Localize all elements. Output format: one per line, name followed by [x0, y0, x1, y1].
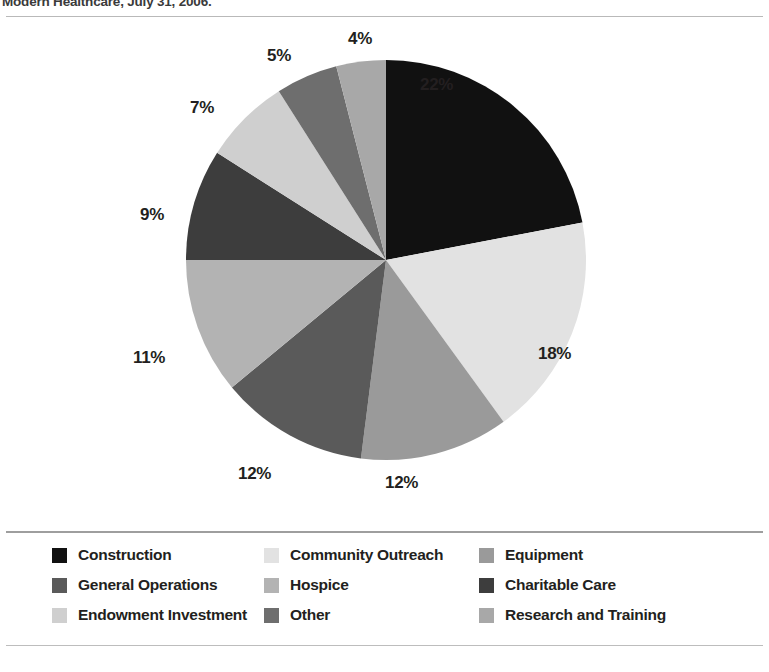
pie-label-other: 5% [267, 47, 291, 64]
pie-chart-svg [185, 59, 587, 461]
pie-slice-group [186, 60, 586, 460]
legend-swatch-icon [264, 548, 279, 563]
pie-chart [185, 59, 587, 461]
legend-item[interactable]: Equipment [479, 540, 742, 570]
legend-item[interactable]: Charitable Care [479, 570, 742, 600]
legend-item-label: Research and Training [505, 606, 666, 624]
legend-swatch-icon [52, 548, 67, 563]
legend-item[interactable]: Other [264, 600, 479, 630]
top-divider [6, 16, 763, 17]
legend-item-label: Equipment [505, 546, 583, 564]
legend-item-label: Construction [78, 546, 171, 564]
legend-swatch-icon [479, 548, 494, 563]
legend-swatch-icon [52, 608, 67, 623]
legend-swatch-icon [479, 608, 494, 623]
source-caption: Modern Healthcare, July 31, 2006. [0, 0, 769, 13]
legend-item[interactable]: General Operations [52, 570, 264, 600]
legend-top-divider [6, 531, 763, 533]
legend-item[interactable]: Research and Training [479, 600, 742, 630]
legend-swatch-icon [264, 608, 279, 623]
pie-label-hospice: 11% [133, 349, 165, 366]
legend-item-label: Hospice [290, 576, 349, 594]
legend-swatch-icon [264, 578, 279, 593]
legend-item[interactable]: Construction [52, 540, 264, 570]
legend-item-label: Endowment Investment [78, 606, 247, 624]
chart-legend: ConstructionCommunity OutreachEquipmentG… [0, 540, 769, 640]
legend-item-label: Community Outreach [290, 546, 443, 564]
legend-swatch-icon [52, 578, 67, 593]
pie-label-charitable-care: 9% [140, 206, 164, 223]
legend-item[interactable]: Endowment Investment [52, 600, 264, 630]
legend-swatch-icon [479, 578, 494, 593]
pie-label-general-operations: 12% [238, 465, 271, 482]
pie-label-community-outreach: 18% [538, 345, 571, 362]
source-caption-text: Modern Healthcare, July 31, 2006. [0, 0, 769, 13]
pie-chart-area: 22% 18% 12% 12% 11% 9% 7% 5% 4% [0, 20, 769, 528]
pie-label-research-training: 4% [348, 30, 372, 47]
pie-label-equipment: 12% [385, 474, 418, 491]
legend-item-label: Other [290, 606, 330, 624]
legend-item[interactable]: Hospice [264, 570, 479, 600]
legend-bottom-divider [6, 645, 763, 646]
legend-item[interactable]: Community Outreach [264, 540, 479, 570]
pie-label-endowment-investment: 7% [190, 99, 214, 116]
legend-item-label: General Operations [78, 576, 217, 594]
pie-label-construction: 22% [420, 76, 453, 93]
legend-item-label: Charitable Care [505, 576, 616, 594]
legend-grid: ConstructionCommunity OutreachEquipmentG… [52, 540, 742, 630]
